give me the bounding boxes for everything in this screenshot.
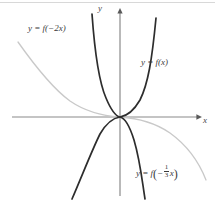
- label-close-paren: ): [174, 167, 178, 181]
- y-axis-label: y: [98, 4, 102, 13]
- curve-label-f-neg-third-x: y = f(−13x): [136, 164, 178, 180]
- curve-label-f-neg-2x: y = f(−2x): [28, 24, 66, 33]
- label-minus-sign: −: [157, 168, 163, 178]
- curve-label-f-x: y = f(x): [141, 58, 168, 67]
- fraction-one-third: 13: [164, 164, 170, 180]
- figure-container: y = f(−2x) y = f(x) y = f(−13x) x y: [0, 0, 215, 201]
- label-prefix: y = f: [136, 168, 153, 178]
- x-axis-label: x: [203, 116, 207, 125]
- fraction-denominator: 3: [164, 172, 170, 179]
